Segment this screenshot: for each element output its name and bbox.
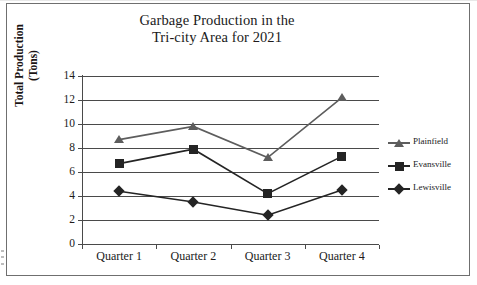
data-point-evansville-1 bbox=[115, 159, 124, 168]
series-line-lewisville bbox=[119, 190, 342, 215]
y-axis-tick-label: 8 bbox=[53, 141, 75, 153]
chart-frame: Garbage Production in the Tri-city Area … bbox=[6, 3, 470, 276]
y-axis-tick-label-wrap: 8 bbox=[51, 141, 75, 153]
legend: PlainfieldEvansvilleLewisville bbox=[388, 135, 474, 204]
data-point-plainfield-3 bbox=[263, 153, 273, 161]
legend-item-evansville[interactable]: Evansville bbox=[388, 158, 474, 181]
legend-label: Evansville bbox=[413, 159, 451, 169]
scan-artifact-mark-2 bbox=[1, 256, 4, 258]
series-line-evansville bbox=[119, 149, 342, 193]
chart-title: Garbage Production in the Tri-city Area … bbox=[67, 12, 367, 46]
legend-marker-diamond-icon bbox=[393, 183, 404, 194]
y-axis-label: Total Production (Tons) bbox=[13, 1, 40, 131]
chart-page: Garbage Production in the Tri-city Area … bbox=[0, 0, 477, 285]
legend-marker-square-icon bbox=[395, 162, 404, 171]
y-axis-tick-label-wrap: 14 bbox=[51, 69, 75, 81]
scan-artifact-mark-3 bbox=[1, 263, 4, 265]
y-axis-tick-label-wrap: 4 bbox=[51, 189, 75, 201]
y-axis-tick-label: 14 bbox=[53, 69, 75, 81]
data-point-evansville-3 bbox=[263, 189, 272, 198]
y-axis-tick-label-wrap: 10 bbox=[51, 117, 75, 129]
y-axis-label-line-1: Total Production bbox=[13, 24, 25, 107]
scan-artifact-mark-1 bbox=[1, 250, 4, 252]
y-axis-tick-label: 0 bbox=[53, 237, 75, 249]
plot-area bbox=[82, 76, 379, 244]
y-axis-tick-label-wrap: 12 bbox=[51, 93, 75, 105]
y-axis-tick-label: 12 bbox=[53, 93, 75, 105]
y-axis-label-line-2: (Tons) bbox=[26, 1, 40, 131]
chart-title-line-2: Tri-city Area for 2021 bbox=[67, 29, 367, 46]
y-axis-tick-label: 2 bbox=[53, 213, 75, 225]
x-axis-category-label: Quarter 1 bbox=[79, 249, 159, 264]
data-point-evansville-2 bbox=[189, 145, 198, 154]
y-axis-tick-label-wrap: 6 bbox=[51, 165, 75, 177]
legend-item-plainfield[interactable]: Plainfield bbox=[388, 135, 474, 158]
data-point-plainfield-2 bbox=[188, 122, 198, 130]
legend-label: Lewisville bbox=[413, 182, 451, 192]
y-axis-tick-label: 4 bbox=[53, 189, 75, 201]
chart-title-line-1: Garbage Production in the bbox=[139, 12, 294, 28]
series-line-plainfield bbox=[119, 98, 342, 158]
y-axis-tick-label: 6 bbox=[53, 165, 75, 177]
legend-item-lewisville[interactable]: Lewisville bbox=[388, 181, 474, 204]
data-point-evansville-4 bbox=[337, 152, 346, 161]
data-point-plainfield-1 bbox=[114, 135, 124, 143]
scan-artifact-top bbox=[0, 0, 477, 1]
x-axis-category-label: Quarter 4 bbox=[302, 249, 382, 264]
y-axis-tick-label-wrap: 2 bbox=[51, 213, 75, 225]
legend-label: Plainfield bbox=[413, 136, 448, 146]
y-axis-tick-label-wrap: 0 bbox=[51, 237, 75, 249]
x-axis-category-label: Quarter 3 bbox=[228, 249, 308, 264]
series-lines bbox=[82, 76, 379, 244]
y-axis-tick-label: 10 bbox=[53, 117, 75, 129]
x-axis-category-label: Quarter 2 bbox=[153, 249, 233, 264]
legend-marker-triangle-icon bbox=[394, 139, 404, 147]
data-point-plainfield-4 bbox=[337, 93, 347, 101]
